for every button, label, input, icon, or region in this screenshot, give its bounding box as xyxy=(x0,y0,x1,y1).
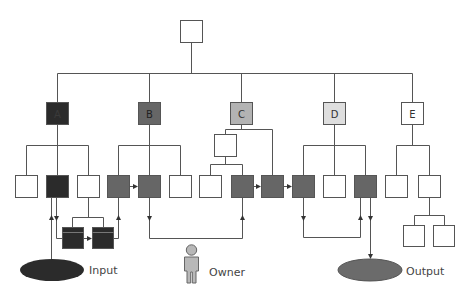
person-icon xyxy=(185,245,199,283)
leaf-node xyxy=(16,176,38,198)
arrowhead-icon xyxy=(368,216,373,221)
leaf-node xyxy=(170,176,192,198)
sub-node xyxy=(215,135,237,157)
arrowhead-icon xyxy=(147,216,152,221)
arrowhead-icon xyxy=(133,184,138,189)
leaf-node xyxy=(200,176,222,198)
input-ellipse xyxy=(20,259,84,281)
owner-label: Owner xyxy=(209,266,245,279)
arrowhead-icon xyxy=(87,236,92,241)
arrowhead-icon xyxy=(54,216,59,221)
arrowhead-icon xyxy=(358,215,363,220)
sub-node xyxy=(434,226,455,247)
leaf-node xyxy=(262,176,284,198)
category-node-b: B xyxy=(139,103,161,125)
category-node-a: A xyxy=(47,103,69,125)
arrowhead-icon xyxy=(49,215,54,220)
arrowhead-icon xyxy=(287,184,292,189)
arrowhead-icon xyxy=(240,215,245,220)
storage-node xyxy=(63,228,84,249)
category-label: E xyxy=(409,109,415,120)
category-node-d: D xyxy=(324,103,346,125)
leaf-node xyxy=(47,176,69,198)
leaf-node xyxy=(139,176,161,198)
leaf-node xyxy=(78,176,100,198)
leaf-node xyxy=(324,176,346,198)
input-label: Input xyxy=(89,264,118,277)
output-ellipse xyxy=(338,259,402,281)
category-label: D xyxy=(331,109,339,120)
process-hierarchy-diagram: A B C D E xyxy=(0,0,476,297)
category-label: B xyxy=(146,109,153,120)
arrowhead-icon xyxy=(368,254,373,259)
category-label: C xyxy=(238,109,245,120)
category-label: A xyxy=(54,109,61,120)
arrowhead-icon xyxy=(301,216,306,221)
leaf-node xyxy=(419,176,441,198)
arrowhead-icon xyxy=(116,215,121,220)
leaf-node xyxy=(386,176,408,198)
arrowhead-icon xyxy=(256,184,261,189)
leaf-node xyxy=(232,176,254,198)
leaf-node xyxy=(355,176,377,198)
storage-node xyxy=(93,228,114,249)
leaf-node xyxy=(293,176,315,198)
root-node xyxy=(181,21,203,43)
output-label: Output xyxy=(406,265,445,278)
category-node-c: C xyxy=(231,103,253,125)
category-node-e: E xyxy=(402,103,424,125)
sub-node xyxy=(404,226,425,247)
leaf-node xyxy=(108,176,130,198)
